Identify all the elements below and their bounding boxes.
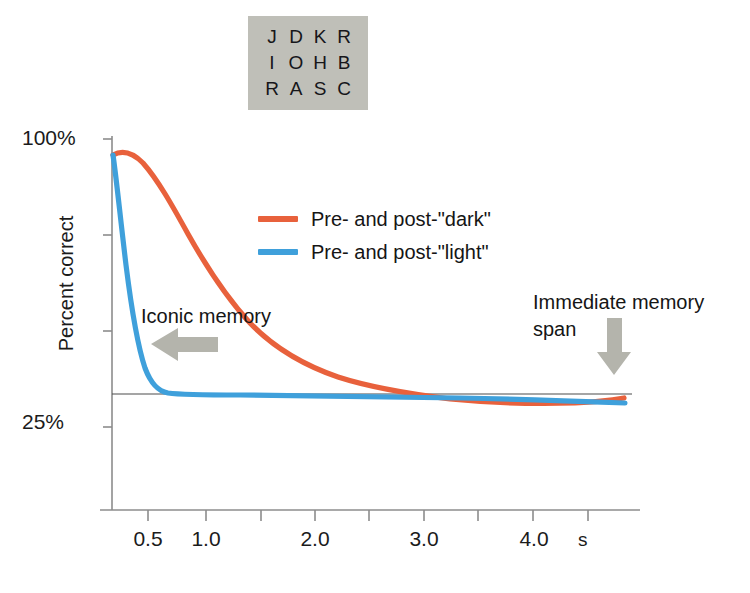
chart-legend: Pre- and post-"dark" Pre- and post-"ligh…: [258, 208, 491, 263]
annotation-immediate-span-line2: span: [533, 318, 576, 341]
stimulus-letter: R: [332, 24, 356, 50]
legend-label-dark: Pre- and post-"dark": [311, 208, 491, 231]
stimulus-letter: C: [332, 76, 356, 102]
legend-swatch-light-icon: [258, 249, 298, 255]
stimulus-letter: A: [284, 76, 308, 102]
x-axis-unit-label: s: [578, 529, 588, 551]
stimulus-letter-matrix: J D K R I O H B R A S C: [248, 16, 368, 110]
series-line-dark: [113, 152, 624, 403]
stimulus-letter: S: [308, 76, 332, 102]
immediate-span-arrow-icon: [597, 318, 631, 375]
y-axis-bottom-label: 25%: [22, 410, 64, 434]
legend-item-light: Pre- and post-"light": [258, 241, 491, 263]
annotation-iconic-memory: Iconic memory: [141, 305, 271, 328]
x-tick-label-1-0: 1.0: [183, 527, 229, 551]
x-tick-label-3-0: 3.0: [401, 527, 447, 551]
stimulus-letter: R: [260, 76, 284, 102]
x-tick-label-4-0: 4.0: [511, 527, 557, 551]
chart-figure: J D K R I O H B R A S C: [0, 0, 750, 593]
stimulus-letter: I: [260, 50, 284, 76]
x-tick-label-2-0: 2.0: [292, 527, 338, 551]
y-axis-title: Percent correct: [55, 184, 78, 384]
stimulus-row: J D K R: [248, 24, 368, 50]
annotation-immediate-span-line1: Immediate memory: [533, 291, 704, 314]
x-tick-label-0-5: 0.5: [125, 527, 171, 551]
stimulus-letter: O: [284, 50, 308, 76]
legend-swatch-dark-icon: [258, 216, 298, 222]
stimulus-letter: B: [332, 50, 356, 76]
series-line-light: [113, 155, 625, 403]
stimulus-row: R A S C: [248, 76, 368, 102]
stimulus-row: I O H B: [248, 50, 368, 76]
stimulus-letter: D: [284, 24, 308, 50]
iconic-memory-arrow-icon: [151, 328, 218, 361]
y-axis-top-label: 100%: [22, 126, 76, 150]
stimulus-letter: K: [308, 24, 332, 50]
legend-item-dark: Pre- and post-"dark": [258, 208, 491, 230]
stimulus-letter: H: [308, 50, 332, 76]
legend-label-light: Pre- and post-"light": [311, 241, 489, 264]
stimulus-letter: J: [260, 24, 284, 50]
